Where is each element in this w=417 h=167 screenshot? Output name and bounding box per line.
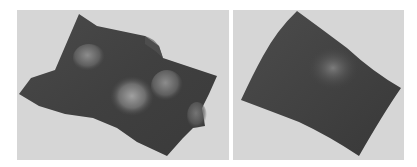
- surface-plot-left: [17, 10, 229, 160]
- smooth-surface-render: [233, 10, 404, 160]
- bumpy-surface-render: [17, 10, 229, 160]
- surface-plot-right: [233, 10, 404, 160]
